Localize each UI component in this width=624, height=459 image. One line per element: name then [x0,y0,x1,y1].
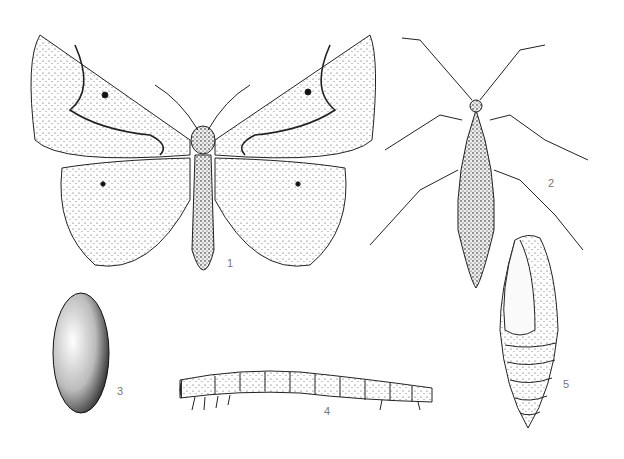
label-4: 4 [324,405,330,417]
egg [53,293,109,413]
moth-adult [31,35,376,270]
label-2: 2 [548,177,554,189]
pupa [500,235,558,428]
label-3: 3 [117,385,123,397]
insect-drawings [0,0,624,459]
illustration-plate: 1 2 3 4 5 [0,0,624,459]
label-1: 1 [227,257,233,269]
larva [180,371,432,410]
label-5: 5 [563,378,569,390]
wingless-female [370,38,588,288]
